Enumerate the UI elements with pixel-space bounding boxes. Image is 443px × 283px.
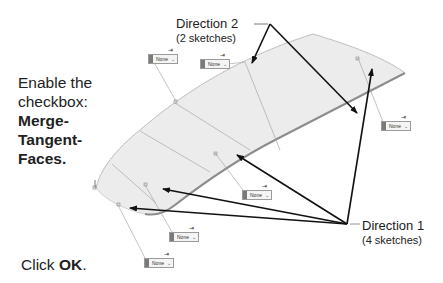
callout-direction-2: Direction 2 (2 sketches) [176,16,238,45]
chevron-down-icon: ⌄ [167,259,171,267]
pin-icon[interactable]: ⇥ [189,225,194,231]
diagram-canvas: Enable the checkbox: Merge- Tangent- Fac… [0,0,443,283]
pin-icon[interactable]: ⇥ [220,52,225,58]
checkbox-name-part: Tangent- [18,131,82,148]
tangency-dropdown[interactable]: ⇥ None ⌄ [169,232,199,242]
loft-surface [96,34,405,215]
color-swatch [170,233,174,241]
instruction-line: Enable the [18,73,92,92]
dropdown-value: None [389,122,401,130]
callout-title: Direction 1 [362,218,424,233]
dropdown-value: None [250,191,262,199]
color-swatch [145,259,149,267]
pin-icon[interactable]: ⇥ [401,114,406,120]
pin-icon[interactable]: ⇥ [168,47,173,53]
color-swatch [382,122,386,130]
dropdown-value: None [177,233,189,241]
chevron-down-icon: ⌄ [223,60,227,68]
instruction-step-click-ok: Click OK. [21,255,86,274]
callout-direction-1: Direction 1 (4 sketches) [362,218,424,247]
color-swatch [149,55,153,63]
chevron-down-icon: ⌄ [171,55,175,63]
tangency-dropdown[interactable]: ⇥ None ⌄ [242,190,272,200]
checkbox-name-part: Faces. [18,150,66,167]
instruction-line: checkbox: [18,92,92,111]
instruction-step-merge-tangent-faces: Enable the checkbox: Merge- Tangent- Fac… [18,73,92,168]
color-swatch [201,60,205,68]
pin-icon[interactable]: ⇥ [164,251,169,257]
ok-label: OK [59,256,82,273]
tangency-dropdown[interactable]: ⇥ None ⌄ [381,121,411,131]
instruction-text: . [82,256,86,273]
callout-title: Direction 2 [176,16,238,31]
chevron-down-icon: ⌄ [404,122,408,130]
dropdown-value: None [208,60,220,68]
dropdown-value: None [156,55,168,63]
tangency-dropdown[interactable]: ⇥ None ⌄ [200,59,230,69]
chevron-down-icon: ⌄ [265,191,269,199]
dropdown-value: None [152,259,164,267]
tangency-dropdown[interactable]: ⇥ None ⌄ [144,258,174,268]
pin-icon[interactable]: ⇥ [262,183,267,189]
checkbox-name-part: Merge- [18,112,69,129]
callout-subtitle: (4 sketches) [362,233,424,247]
chevron-down-icon: ⌄ [192,233,196,241]
color-swatch [243,191,247,199]
tangency-dropdown[interactable]: ⇥ None ⌄ [148,54,178,64]
callout-subtitle: (2 sketches) [176,31,238,45]
instruction-text: Click [21,256,59,273]
